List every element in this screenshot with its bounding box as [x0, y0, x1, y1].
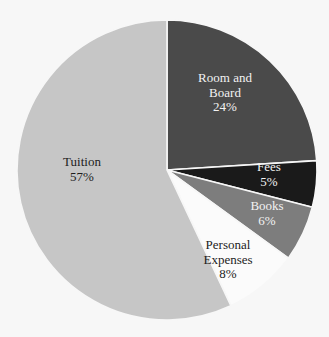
pie-svg [0, 0, 329, 337]
pie-chart: Room and Board 24% Fees 5% Books 6% Pers… [0, 0, 329, 337]
pie-slice-room-and-board [167, 20, 317, 170]
pie-slice-group [17, 20, 317, 320]
